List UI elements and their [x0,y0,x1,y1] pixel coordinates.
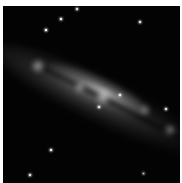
star [165,108,168,111]
galaxy-image [3,6,180,183]
galaxy-knot [164,124,176,136]
star [76,8,78,10]
galaxy-knot [95,89,111,105]
star [98,106,100,108]
star [143,173,144,174]
star [60,18,62,20]
star [45,29,46,30]
galaxy-knot [139,104,151,116]
star [29,174,32,177]
star [50,149,52,151]
galaxy-knot [74,81,86,93]
star [139,21,142,24]
galaxy-knot [31,59,45,73]
